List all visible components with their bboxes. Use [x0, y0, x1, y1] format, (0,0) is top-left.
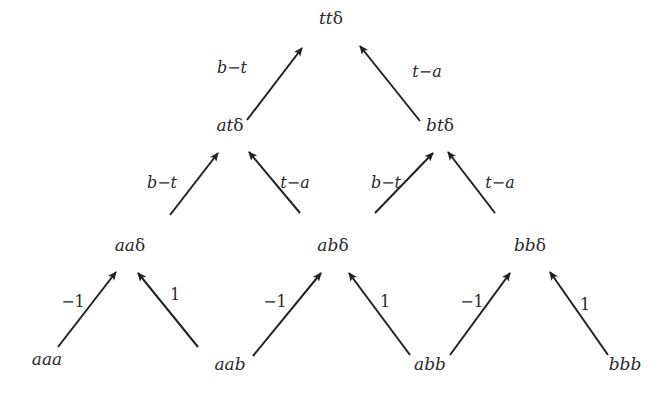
- node-ab: abδ: [317, 235, 348, 255]
- delta-symbol: δ: [444, 115, 454, 135]
- edge-label-abb-to-ab: 1: [380, 292, 390, 311]
- delta-symbol: δ: [536, 235, 546, 255]
- edge-label-aab-to-aa: 1: [170, 285, 180, 304]
- delta-symbol: δ: [135, 235, 145, 255]
- arrow-aab-to-aa: [138, 273, 198, 347]
- delta-symbol: δ: [338, 235, 348, 255]
- edge-label-ab-to-at: t−a: [280, 173, 309, 192]
- node-tt: ttδ: [319, 8, 343, 28]
- node-label: bt: [426, 115, 444, 135]
- arrow-abb-to-bb: [450, 273, 510, 355]
- node-bb: bbδ: [514, 235, 546, 255]
- delta-symbol: δ: [333, 8, 343, 28]
- edge-label-bt-to-tt: t−a: [412, 62, 441, 81]
- node-bt: btδ: [426, 115, 454, 135]
- edge-label-ab-to-bt: b−t: [371, 173, 402, 192]
- edge-label-at-to-tt: b−t: [217, 58, 248, 77]
- node-label: bb: [514, 235, 536, 255]
- edge-label-aab-to-ab: −1: [263, 292, 287, 311]
- edge-label-bbb-to-bb: 1: [580, 295, 590, 314]
- node-label: tt: [319, 8, 333, 28]
- arrow-bt-to-tt: [360, 46, 420, 121]
- node-label: aa: [115, 235, 135, 255]
- arrow-aab-to-ab: [253, 273, 321, 356]
- arrow-at-to-tt: [247, 48, 302, 120]
- node-label: abb: [414, 354, 446, 374]
- nodes-group: ttδatδbtδaaδabδbbδaaaaababbbbb: [32, 8, 642, 374]
- node-abb: abb: [414, 354, 446, 374]
- delta-symbol: δ: [233, 115, 243, 135]
- node-aab: aab: [214, 354, 245, 374]
- node-aa: aaδ: [115, 235, 146, 255]
- edges-group: b−tt−ab−tt−ab−tt−a−11−11−11: [58, 46, 608, 356]
- node-label: aab: [214, 354, 245, 374]
- node-label: aaa: [32, 349, 62, 369]
- node-label: ab: [317, 235, 338, 255]
- edge-label-abb-to-bb: −1: [460, 292, 484, 311]
- node-at: atδ: [216, 115, 243, 135]
- arrow-aa-to-at: [170, 153, 218, 215]
- edge-label-aa-to-at: b−t: [147, 173, 178, 192]
- node-label: at: [216, 115, 233, 135]
- node-aaa: aaa: [32, 349, 62, 369]
- node-label: bbb: [609, 354, 642, 374]
- arrow-abb-to-ab: [349, 273, 410, 355]
- edge-label-aaa-to-aa: −1: [61, 292, 85, 311]
- edge-label-bb-to-bt: t−a: [485, 173, 514, 192]
- tree-diagram: b−tt−ab−tt−ab−tt−a−11−11−11 ttδatδbtδaaδ…: [0, 0, 663, 395]
- node-bbb: bbb: [609, 354, 642, 374]
